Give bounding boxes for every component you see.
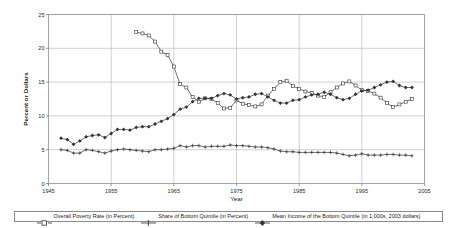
- data-point-marker: [385, 102, 388, 105]
- x-axis-title: Year: [230, 195, 243, 202]
- data-point-marker: [229, 106, 232, 109]
- data-point-marker: [335, 96, 339, 100]
- chart-plot-area: 05101520251945195519651975198519952005Pe…: [0, 0, 457, 228]
- data-point-marker: [272, 98, 276, 102]
- data-point-marker: [273, 87, 276, 90]
- data-point-marker: [347, 96, 351, 100]
- data-point-marker: [342, 82, 345, 85]
- data-point-marker: [84, 135, 88, 139]
- data-point-marker: [197, 96, 201, 100]
- data-point-marker: [373, 92, 376, 95]
- data-point-marker: [297, 98, 301, 102]
- series-line-0: [136, 32, 412, 108]
- data-point-marker: [322, 90, 326, 94]
- legend-item-overall-poverty-rate: Overall Poverty Rate (in Percent): [37, 213, 135, 221]
- data-point-marker: [410, 86, 414, 90]
- x-tick-label: 1985: [293, 188, 305, 194]
- chart-legend: Overall Poverty Rate (in Percent) Share …: [14, 211, 443, 222]
- data-point-marker: [391, 80, 395, 84]
- data-point-marker: [404, 100, 407, 103]
- legend-label: Mean Income of the Bottom Quintile (in 1…: [272, 214, 420, 220]
- data-point-marker: [197, 100, 200, 103]
- data-point-marker: [116, 128, 120, 132]
- legend-item-mean-income-bottom-quintile: Mean Income of the Bottom Quintile (in 1…: [255, 213, 420, 221]
- data-point-marker: [222, 92, 226, 96]
- data-point-marker: [247, 95, 251, 99]
- y-tick-label: 15: [38, 79, 44, 85]
- data-point-marker: [78, 139, 82, 143]
- data-point-marker: [304, 95, 308, 99]
- data-point-marker: [354, 92, 358, 96]
- data-point-marker: [254, 105, 257, 108]
- data-point-marker: [103, 136, 107, 140]
- data-point-marker: [147, 34, 150, 37]
- data-point-marker: [154, 40, 157, 43]
- data-point-marker: [134, 125, 138, 129]
- y-tick-label: 10: [38, 113, 44, 119]
- data-point-marker: [90, 134, 94, 138]
- y-axis-title: Percent or Dollars: [22, 72, 29, 126]
- data-point-marker: [298, 87, 301, 90]
- data-point-marker: [260, 92, 264, 96]
- data-point-marker: [253, 92, 257, 96]
- y-tick-label: 20: [38, 45, 44, 51]
- data-point-marker: [185, 86, 188, 89]
- data-point-marker: [59, 136, 63, 140]
- x-tick-label: 1945: [42, 188, 54, 194]
- data-point-marker: [216, 102, 219, 105]
- data-point-marker: [172, 65, 175, 68]
- data-point-marker: [392, 106, 395, 109]
- data-point-marker: [372, 86, 376, 90]
- data-point-marker: [398, 84, 402, 88]
- filled-diamond-marker-icon: [255, 213, 270, 221]
- data-point-marker: [122, 128, 126, 132]
- data-point-marker: [159, 119, 163, 123]
- data-point-marker: [398, 103, 401, 106]
- open-square-marker-icon: [37, 213, 52, 221]
- x-tick-label: 1955: [105, 188, 117, 194]
- data-point-marker: [166, 54, 169, 57]
- data-point-marker: [141, 32, 144, 35]
- legend-item-share-bottom-quintile: Share of Bottom Quintile (in Percent): [141, 213, 248, 221]
- poverty-chart: 05101520251945195519651975198519952005Pe…: [0, 0, 457, 228]
- data-point-marker: [335, 86, 338, 89]
- data-point-marker: [285, 79, 288, 82]
- y-tick-label: 25: [38, 12, 44, 18]
- data-point-marker: [291, 98, 295, 102]
- data-point-marker: [410, 98, 413, 101]
- data-point-marker: [216, 94, 220, 98]
- data-point-marker: [379, 96, 382, 99]
- data-point-marker: [248, 104, 251, 107]
- x-tick-label: 1965: [168, 188, 180, 194]
- y-tick-label: 5: [41, 147, 44, 153]
- data-point-marker: [241, 102, 244, 105]
- data-point-marker: [385, 80, 389, 84]
- data-point-marker: [179, 83, 182, 86]
- data-point-marker: [191, 95, 194, 98]
- data-point-marker: [153, 122, 157, 126]
- data-point-marker: [404, 86, 408, 90]
- plus-marker-icon: [141, 213, 156, 221]
- data-point-marker: [160, 50, 163, 53]
- data-point-marker: [228, 93, 232, 97]
- data-point-marker: [222, 107, 225, 110]
- data-point-marker: [166, 117, 170, 121]
- x-tick-label: 1995: [356, 188, 368, 194]
- data-point-marker: [323, 95, 326, 98]
- data-point-marker: [278, 101, 282, 105]
- data-point-marker: [341, 98, 345, 102]
- data-point-marker: [348, 80, 351, 83]
- y-tick-label: 0: [41, 181, 44, 187]
- data-point-marker: [260, 103, 263, 106]
- data-point-marker: [354, 84, 357, 87]
- data-point-marker: [279, 81, 282, 84]
- data-point-marker: [241, 96, 245, 100]
- x-tick-label: 2005: [418, 188, 430, 194]
- data-point-marker: [135, 31, 138, 34]
- x-tick-label: 1975: [230, 188, 242, 194]
- data-point-marker: [285, 101, 289, 105]
- data-point-marker: [141, 125, 145, 129]
- legend-label: Overall Poverty Rate (in Percent): [54, 214, 135, 220]
- data-point-marker: [109, 132, 113, 136]
- data-point-marker: [97, 133, 101, 137]
